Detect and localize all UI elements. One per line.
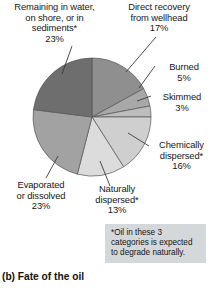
slice-label-burned: Burned 5%	[156, 62, 212, 83]
slice-label-naturally-dispersed: Naturally dispersed* 13%	[82, 184, 152, 216]
figure-fate-of-the-oil: Remaining in water, on shore, or in sedi…	[0, 0, 214, 290]
slice-label-chemically-dispersed: Chemically dispersed* 16%	[150, 140, 213, 172]
figure-caption: (b) Fate of the oil	[2, 271, 84, 282]
leader-burned	[139, 66, 155, 88]
pie-slices	[33, 58, 151, 176]
footnote-box: *Oil in these 3 categories is expected t…	[105, 224, 206, 263]
slice-label-skimmed: Skimmed 3%	[152, 92, 212, 113]
leader-direct	[126, 37, 156, 72]
slice-label-remaining-in-water: Remaining in water, on shore, or in sedi…	[1, 2, 108, 44]
slice-label-evaporated-or-dissolved: Evaporated or dissolved 23%	[2, 180, 80, 212]
pie-slice	[33, 58, 92, 117]
slice-label-direct-recovery: Direct recovery from wellhead 17%	[109, 2, 209, 34]
